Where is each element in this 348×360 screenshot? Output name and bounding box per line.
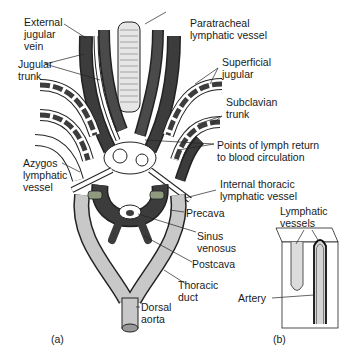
right-branches (168, 84, 222, 180)
caption-panel-b: (b) (273, 333, 286, 345)
label-postcava: Postcava (192, 258, 235, 270)
dorsal-aorta-end (122, 324, 138, 332)
junction-area (104, 142, 156, 174)
label-paratracheal-lymphatic-vessel: Paratracheal lymphatic vessel (190, 17, 267, 41)
label-precava: Precava (186, 207, 225, 219)
label-subclavian-trunk: Subclavian trunk (226, 96, 277, 120)
label-lymphatic-vessels: Lymphatic vessels (280, 205, 327, 229)
label-dorsal-aorta: Dorsal aorta (141, 301, 171, 325)
label-artery: Artery (238, 292, 266, 304)
label-points-of-lymph-return: Points of lymph return to blood circulat… (217, 139, 319, 163)
trachea (118, 22, 140, 112)
caption-panel-a: (a) (51, 333, 64, 345)
label-external-jugular-vein: External jugular vein (24, 16, 63, 52)
panel-b-cross-section (272, 228, 338, 328)
label-thoracic-duct: Thoracic duct (178, 279, 218, 303)
label-azygos-lymphatic-vessel: Azygos lymphatic vessel (23, 157, 67, 193)
label-sinus-venosus: Sinus venosus (197, 230, 236, 254)
label-jugular-trunk: Jugular trunk (18, 58, 52, 82)
vessel-stubs (88, 191, 164, 199)
label-superficial-jugular: Superficial jugular (222, 56, 271, 80)
label-internal-thoracic-lymphatic-vessel: Internal thoracic lymphatic vessel (220, 178, 297, 202)
